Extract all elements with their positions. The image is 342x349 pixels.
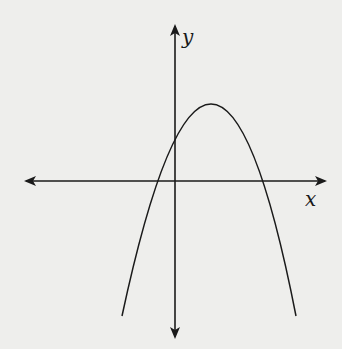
coordinate-graph: y x [0,0,342,349]
y-axis-label: y [181,25,194,49]
x-axis-label: x [305,187,316,211]
parabola-curve [122,104,296,316]
